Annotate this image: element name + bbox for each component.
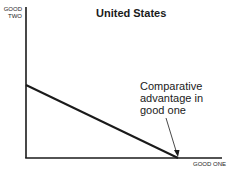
comparative-advantage-annotation: Comparative advantage in good one — [140, 80, 230, 116]
ppf-chart: United States GOOD TWO GOOD ONE Comparat… — [0, 0, 241, 177]
y-axis-label: GOOD TWO — [2, 6, 22, 20]
y-axis-label-line-2: TWO — [2, 13, 22, 20]
annotation-arrow — [166, 118, 177, 154]
y-axis-label-line-1: GOOD — [2, 6, 22, 13]
annotation-line-1: Comparative — [140, 80, 230, 92]
x-axis-label: GOOD ONE — [193, 161, 226, 167]
chart-title: United States — [96, 7, 166, 19]
annotation-line-3: good one — [140, 104, 230, 116]
annotation-line-2: advantage in — [140, 92, 230, 104]
